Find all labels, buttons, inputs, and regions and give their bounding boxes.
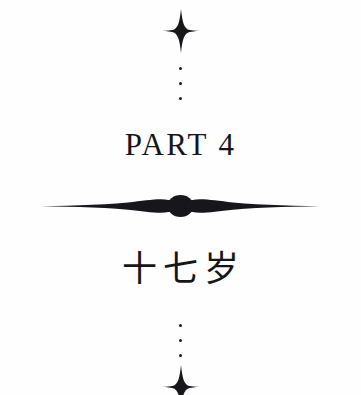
star-ornament-top [0, 8, 361, 54]
dot [179, 354, 182, 357]
dot [179, 324, 182, 327]
dot [179, 82, 182, 85]
part-title-page: PART 4 十七岁 [0, 0, 361, 395]
chapter-title-zh: 十七岁 [0, 248, 361, 290]
dots-ornament-bottom [0, 318, 361, 363]
dot [179, 339, 182, 342]
divider-ornament [0, 188, 361, 224]
star-ornament-bottom [0, 364, 361, 395]
dots-ornament-top [0, 61, 361, 106]
four-pointed-star-icon [158, 364, 204, 395]
dot [179, 67, 182, 70]
four-pointed-star-icon [158, 8, 204, 54]
part-title-label: PART 4 [0, 128, 361, 162]
leaf-lens-divider-icon [28, 188, 333, 224]
dot [179, 97, 182, 100]
